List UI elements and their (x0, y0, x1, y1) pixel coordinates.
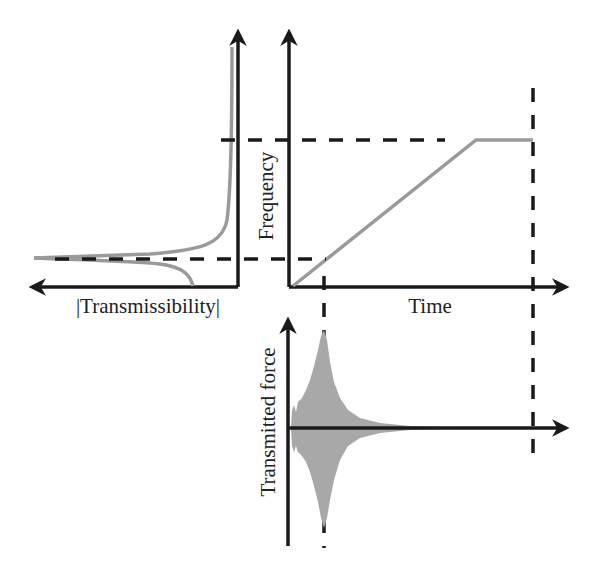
frequency-sweep-curve (293, 140, 533, 286)
guide-lines (55, 88, 533, 548)
frequency-time-panel (289, 32, 566, 287)
transmissibility-curve-upper (34, 47, 232, 258)
diagram-canvas: |Transmissibility| Time Frequency Transm… (0, 0, 595, 568)
transmitted-force-axis-label: Transmitted force (256, 347, 280, 496)
time-axis-label: Time (408, 294, 452, 318)
transmitted-force-panel (288, 320, 566, 546)
transmissibility-panel (32, 32, 238, 287)
diagram-svg: |Transmissibility| Time Frequency Transm… (0, 0, 595, 568)
transmissibility-curve-lower (34, 258, 193, 286)
transmissibility-axis-label: |Transmissibility| (76, 294, 220, 318)
frequency-axis-label: Frequency (254, 151, 278, 240)
